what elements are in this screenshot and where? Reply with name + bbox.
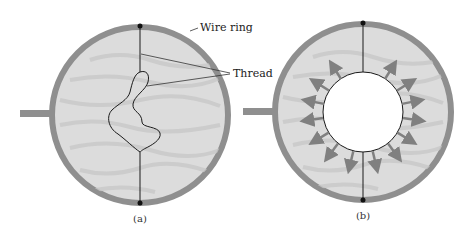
caption-a: (a) [133,213,147,224]
thread-knot-top-b [361,21,366,26]
wire-ring-leader [190,28,198,31]
wire-ring-label: Wire ring [200,21,253,34]
panel-b: (b) [243,21,451,222]
thread-knot-bottom-b [361,198,366,203]
caption-b: (b) [356,210,370,221]
thread-circle-hole-b [323,72,403,152]
ring-handle-b [243,108,277,115]
thread-label: Thread [233,67,273,80]
thread-knot-bottom-a [138,201,143,206]
thread-knot-top-a [138,24,143,29]
panel-a: (a) [20,24,228,225]
ring-handle-a [20,110,54,117]
soap-film-diagram: (a) Wire ring Thread [0,0,467,231]
